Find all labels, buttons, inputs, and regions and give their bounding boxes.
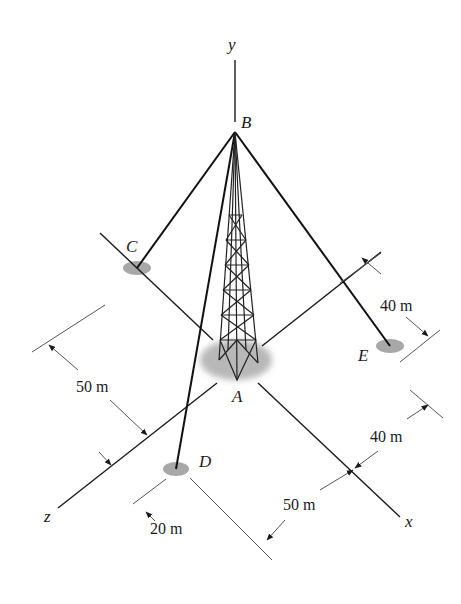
- cable-bd: [176, 132, 235, 469]
- point-label-c: C: [126, 237, 138, 256]
- dim-label-50m-bottom: 50 m: [283, 496, 316, 513]
- point-label-d: D: [198, 452, 212, 471]
- z-axis-front: [58, 383, 217, 508]
- x-axis-front: [258, 383, 400, 517]
- dim-label-50m-left: 50 m: [76, 378, 109, 395]
- axis-label-y: y: [226, 35, 236, 54]
- dim-label-40m-top: 40 m: [380, 297, 413, 314]
- tower-base-shadow: [200, 340, 272, 380]
- guy-wires: [137, 132, 390, 469]
- tower-guy-wire-diagram: y B C A D E z x 40 m 40 m 50 m 50 m 20 m: [0, 0, 461, 604]
- dim-label-40m-bottom: 40 m: [370, 428, 403, 445]
- x-axis-back: [100, 233, 213, 340]
- point-label-b: B: [241, 113, 252, 132]
- cable-be: [235, 132, 390, 346]
- point-label-a: A: [231, 387, 243, 406]
- dim-label-20m: 20 m: [150, 520, 183, 537]
- point-label-e: E: [357, 346, 369, 365]
- axis-label-z: z: [43, 507, 51, 526]
- cable-bc: [137, 132, 235, 268]
- axis-label-x: x: [404, 512, 413, 531]
